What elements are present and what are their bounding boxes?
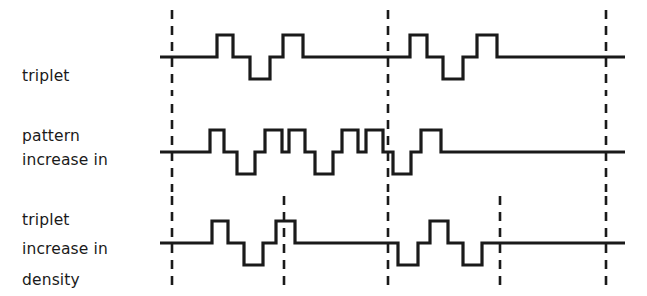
waveform-trace-3 bbox=[160, 221, 625, 265]
waveform-trace-group bbox=[160, 35, 625, 265]
waveform-trace-2 bbox=[160, 130, 625, 174]
row-label-line-1: increase in bbox=[22, 150, 108, 170]
waveform-trace-1 bbox=[160, 35, 625, 79]
row-label-inversion-frequency: increase in inversion frequency bbox=[22, 199, 108, 296]
waveform-figure: triplet pattern increase in triplet dens… bbox=[0, 0, 647, 296]
row-label-line-1: triplet bbox=[22, 66, 80, 86]
dashed-guideline-group bbox=[172, 10, 606, 288]
row-label-line-1: increase in bbox=[22, 239, 108, 259]
